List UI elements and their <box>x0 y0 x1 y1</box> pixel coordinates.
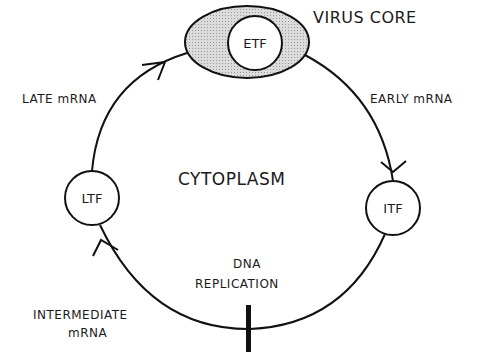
early-mrna-arc <box>305 55 393 181</box>
arrowhead-early <box>381 161 406 172</box>
early-mrna-label: EARLY mRNA <box>370 92 453 106</box>
dna-replication-label-line2: REPLICATION <box>195 277 279 291</box>
itf-node: ITF <box>366 181 420 235</box>
itf-label: ITF <box>383 201 402 216</box>
intermediate-mrna-label-line1: INTERMEDIATE <box>33 308 128 322</box>
etf-node: ETF <box>228 16 282 70</box>
late-mrna-arc <box>92 53 187 171</box>
dna-replication-marker <box>246 305 251 352</box>
intermediate-mrna-label-line2: mRNA <box>68 326 107 340</box>
ltf-node: LTF <box>65 171 119 225</box>
virus-core-label: VIRUS CORE <box>313 8 417 27</box>
arrowhead-late <box>142 62 165 80</box>
dna-replication-label-line1: DNA <box>233 257 261 271</box>
ltf-label: LTF <box>82 191 103 206</box>
cytoplasm-label: CYTOPLASM <box>178 169 285 189</box>
etf-label: ETF <box>243 36 267 51</box>
late-mrna-label: LATE mRNA <box>22 92 97 106</box>
arrowhead-intermediate <box>93 240 118 256</box>
